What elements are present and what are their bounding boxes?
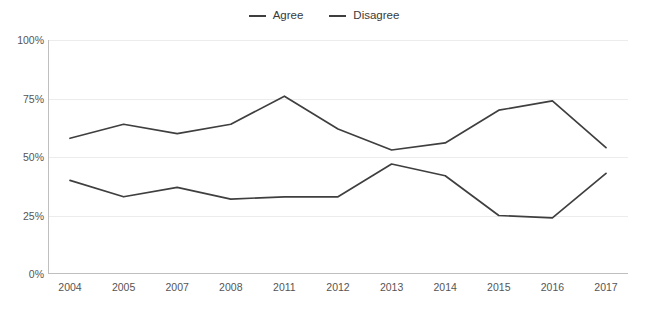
x-axis-labels: 2004200520072008201120122013201420152016… <box>48 279 628 299</box>
y-axis-tick-label: 100% <box>0 34 44 46</box>
series-lines <box>48 40 628 274</box>
legend-item-agree[interactable]: Agree <box>249 10 304 22</box>
x-axis-tick-label: 2008 <box>219 281 242 293</box>
x-axis-tick-label: 2016 <box>541 281 564 293</box>
x-axis-tick-label: 2017 <box>594 281 617 293</box>
legend-label-disagree: Disagree <box>353 10 399 22</box>
line-chart: Agree Disagree 0%25%50%75%100% 200420052… <box>0 0 648 309</box>
y-axis-tick-label: 0% <box>0 268 44 280</box>
legend-item-disagree[interactable]: Disagree <box>329 10 399 22</box>
y-axis-tick-label: 25% <box>0 210 44 222</box>
x-axis-tick-label: 2013 <box>380 281 403 293</box>
x-axis-tick-label: 2007 <box>166 281 189 293</box>
x-axis-tick-label: 2015 <box>487 281 510 293</box>
plot-area <box>48 40 628 274</box>
y-axis-tick-label: 75% <box>0 93 44 105</box>
y-axis-tick-label: 50% <box>0 151 44 163</box>
legend-label-agree: Agree <box>273 10 304 22</box>
x-axis-tick-label: 2011 <box>273 281 296 293</box>
series-line-disagree <box>70 164 606 218</box>
x-axis-tick-label: 2004 <box>58 281 81 293</box>
x-axis-tick-label: 2005 <box>112 281 135 293</box>
x-axis-tick-label: 2012 <box>326 281 349 293</box>
chart-legend: Agree Disagree <box>0 6 648 26</box>
y-axis-labels: 0%25%50%75%100% <box>0 40 44 274</box>
series-line-agree <box>70 96 606 150</box>
line-marker-icon <box>249 15 266 17</box>
line-marker-icon <box>329 15 346 17</box>
x-axis-tick-label: 2014 <box>434 281 457 293</box>
